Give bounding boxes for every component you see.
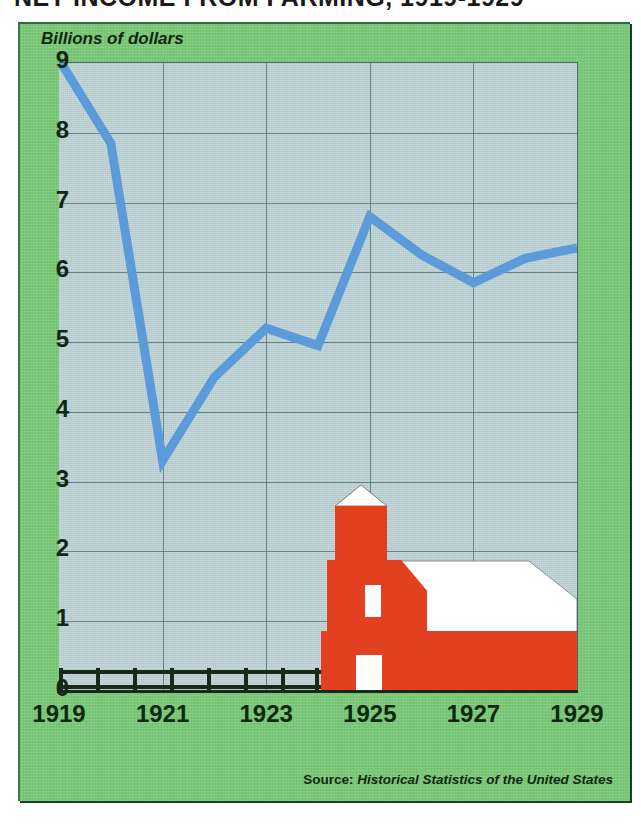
headline-strip: NET INCOME FROM FARMING, 1919-1929 (0, 0, 641, 14)
y-tick-9: 9 (43, 46, 69, 74)
x-tick-1929: 1929 (550, 700, 603, 728)
x-tick-1919: 1919 (32, 700, 85, 728)
y-tick-5: 5 (43, 325, 69, 353)
source-note: Source: Historical Statistics of the Uni… (303, 772, 613, 787)
data-series-layer (59, 63, 577, 691)
line-series-net-farm-income (59, 63, 577, 461)
x-axis-rule (57, 690, 578, 693)
y-tick-4: 4 (43, 395, 69, 423)
page-title: NET INCOME FROM FARMING, 1919-1929 (14, 0, 524, 12)
x-tick-1921: 1921 (136, 700, 189, 728)
source-prefix: Source: (303, 772, 353, 787)
y-tick-3: 3 (43, 465, 69, 493)
x-tick-1927: 1927 (447, 700, 500, 728)
source-title: Historical Statistics of the United Stat… (357, 772, 613, 787)
x-tick-1925: 1925 (343, 700, 396, 728)
y-tick-7: 7 (43, 186, 69, 214)
y-tick-6: 6 (43, 255, 69, 283)
y-tick-2: 2 (43, 534, 69, 562)
y-tick-1: 1 (43, 604, 69, 632)
y-tick-8: 8 (43, 116, 69, 144)
y-tick-0: 0 (43, 674, 69, 702)
plot-area (59, 62, 578, 691)
x-tick-1923: 1923 (239, 700, 292, 728)
